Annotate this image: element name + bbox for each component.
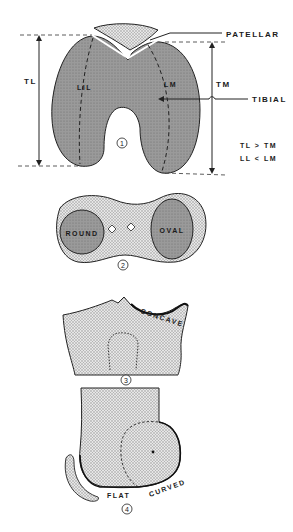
label-patellar: PATELLAR — [226, 30, 279, 39]
panel-4-sagittal-lateral: FLAT CURVED 4 — [65, 388, 186, 514]
panel-2-tibial-plateau: ROUND OVAL 2 — [57, 193, 206, 270]
label-tl: TL — [24, 77, 37, 86]
label-lm: LM — [164, 81, 177, 88]
label-ll: LIL — [77, 84, 92, 91]
label-tibial: TIBIAL — [252, 95, 287, 104]
label-oval: OVAL — [160, 227, 185, 234]
panel-3-sagittal-medial: CONCAVE 3 — [63, 297, 188, 385]
lateral-tibia-shape — [80, 388, 181, 488]
anatomy-figure: PATELLAR TIBIAL TL TM LIL LM TL > TM LL … — [0, 0, 293, 532]
panel-number-1: 1 — [120, 140, 124, 147]
label-tm: TM — [216, 80, 231, 89]
panel-1-femoral-condyles: PATELLAR TIBIAL TL TM LIL LM TL > TM LL … — [18, 24, 287, 175]
panel-number-2: 2 — [121, 262, 125, 269]
relation-2: LL < LM — [240, 155, 277, 162]
label-flat: FLAT — [107, 492, 130, 499]
label-round: ROUND — [65, 230, 98, 237]
medial-tibia-shape — [63, 297, 188, 375]
panel-number-3: 3 — [124, 377, 128, 384]
relation-1: TL > TM — [240, 142, 277, 149]
panel-number-4: 4 — [125, 506, 129, 513]
